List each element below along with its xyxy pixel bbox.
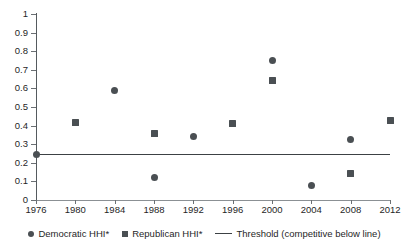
y-axis-tick-label: 0.3: [0, 139, 28, 149]
x-axis-tick-label: 1976: [16, 204, 56, 215]
data-point-republican: [347, 170, 354, 177]
y-axis-tick: [31, 14, 36, 15]
x-axis-tick-label: 2012: [370, 204, 409, 215]
legend-item: Threshold (competitive below line): [215, 228, 380, 239]
data-point-republican: [151, 130, 158, 137]
y-axis-tick-label: 0.4: [0, 121, 28, 131]
x-axis-tick-label: 1992: [173, 204, 213, 215]
legend-item: Republican HHI*: [122, 228, 202, 239]
y-axis-tick-label: 0.1: [0, 176, 28, 186]
y-axis-tick: [31, 70, 36, 71]
x-axis-line: [36, 200, 391, 201]
y-axis-line: [36, 13, 37, 201]
chart-legend: Democratic HHI*Republican HHI*Threshold …: [0, 228, 409, 239]
data-point-democratic: [151, 174, 158, 181]
data-point-democratic: [111, 87, 118, 94]
legend-item: Democratic HHI*: [28, 228, 109, 239]
threshold-line: [36, 154, 390, 155]
circle-marker-icon: [28, 231, 34, 237]
x-axis-tick-label: 1984: [95, 204, 135, 215]
data-point-democratic: [269, 57, 276, 64]
y-axis-tick: [31, 51, 36, 52]
y-axis-tick: [31, 33, 36, 34]
x-axis-tick-label: 1988: [134, 204, 174, 215]
y-axis-tick: [31, 163, 36, 164]
square-marker-icon: [122, 231, 128, 237]
y-axis-tick-label: 0.5: [0, 102, 28, 112]
y-axis-tick: [31, 144, 36, 145]
data-point-republican: [387, 117, 394, 124]
data-point-democratic: [33, 151, 40, 158]
data-point-democratic: [347, 136, 354, 143]
legend-item-label: Threshold (competitive below line): [236, 228, 380, 239]
x-axis-tick-label: 1996: [213, 204, 253, 215]
x-axis-tick-label: 2004: [291, 204, 331, 215]
threshold-line-icon: [215, 233, 232, 234]
x-axis-tick-label: 2008: [331, 204, 371, 215]
data-point-democratic: [308, 182, 315, 189]
x-axis-tick-label: 1980: [55, 204, 95, 215]
data-point-republican: [229, 120, 236, 127]
data-point-republican: [72, 119, 79, 126]
y-axis-tick-label: 1: [0, 9, 28, 19]
x-axis-tick-label: 2000: [252, 204, 292, 215]
data-point-democratic: [190, 133, 197, 140]
y-axis-tick: [31, 181, 36, 182]
y-axis-tick-label: 0.2: [0, 158, 28, 168]
legend-item-label: Republican HHI*: [132, 228, 202, 239]
y-axis-tick: [31, 126, 36, 127]
y-axis-tick-label: 0.8: [0, 46, 28, 56]
y-axis-tick: [31, 88, 36, 89]
y-axis-tick-label: 0.9: [0, 28, 28, 38]
legend-item-label: Democratic HHI*: [38, 228, 109, 239]
y-axis-tick-label: 0.6: [0, 83, 28, 93]
y-axis-tick: [31, 107, 36, 108]
y-axis-tick-label: 0.7: [0, 65, 28, 75]
scatter-chart: 10.90.80.70.60.50.40.30.20.10 1976198019…: [0, 0, 409, 249]
data-point-republican: [269, 77, 276, 84]
